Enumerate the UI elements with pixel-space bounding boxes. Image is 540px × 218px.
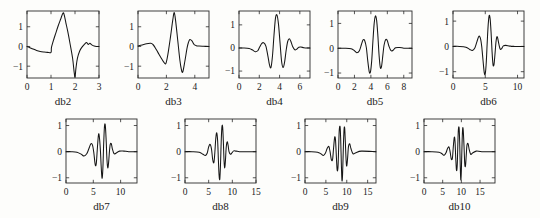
x-tick-label: 0 <box>64 187 69 197</box>
x-tick-label: 4 <box>277 82 282 92</box>
x-tick-label: 3 <box>97 82 102 92</box>
subplot-db8: 051015−101db8 <box>163 115 268 217</box>
y-tick-label: 1 <box>444 17 449 27</box>
axis-frame <box>338 11 412 78</box>
x-tick-label: 2 <box>352 82 357 92</box>
subplot-db10: 051015−101db10 <box>402 115 507 217</box>
y-tick-label: −1 <box>225 66 235 76</box>
y-tick-label: 1 <box>18 22 23 32</box>
y-tick-label: −1 <box>13 62 23 72</box>
x-tick-label: 0 <box>422 187 427 197</box>
x-tick-label: 4 <box>192 82 197 92</box>
x-tick-label: 4 <box>369 82 374 92</box>
subplot-caption-db3: db3 <box>138 95 209 107</box>
y-tick-label: 0 <box>415 147 420 157</box>
wavelet-curve-db5 <box>338 16 412 73</box>
subplot-db4: 0246−101db4 <box>217 7 322 112</box>
x-tick-label: 0 <box>25 82 30 92</box>
x-tick-label: 10 <box>116 187 126 197</box>
subplot-caption-db9: db9 <box>305 200 376 212</box>
subplot-caption-db5: db5 <box>338 95 412 107</box>
x-tick-label: 10 <box>457 187 467 197</box>
y-tick-label: −1 <box>324 68 334 78</box>
wavelet-curve-db4 <box>239 15 310 68</box>
x-tick-label: 15 <box>251 187 261 197</box>
x-tick-label: 5 <box>324 187 329 197</box>
wavelet-curve-db7 <box>66 124 137 179</box>
subplot-db5: 02468−101db5 <box>316 7 424 112</box>
x-tick-label: 0 <box>303 187 308 197</box>
x-tick-label: 5 <box>483 82 488 92</box>
x-tick-label: 10 <box>228 187 238 197</box>
wavelet-curve-db6 <box>453 15 524 75</box>
x-tick-label: 5 <box>440 187 445 197</box>
x-tick-label: 6 <box>385 82 390 92</box>
x-tick-label: 5 <box>206 187 211 197</box>
y-tick-label: −1 <box>124 62 134 72</box>
subplot-caption-db7: db7 <box>66 200 137 212</box>
x-tick-label: 15 <box>475 187 485 197</box>
x-tick-label: 2 <box>257 82 262 92</box>
y-tick-label: 0 <box>57 147 62 157</box>
x-tick-label: 15 <box>363 187 373 197</box>
y-tick-label: −1 <box>439 67 449 77</box>
subplot-db7: 0510−101db7 <box>44 115 149 217</box>
y-tick-label: 0 <box>444 42 449 52</box>
axis-frame <box>239 11 310 78</box>
wavelet-curve-db3 <box>138 13 209 73</box>
y-tick-label: 0 <box>329 44 334 54</box>
y-tick-label: 0 <box>176 147 181 157</box>
y-tick-label: 0 <box>18 42 23 52</box>
y-tick-label: 1 <box>129 22 134 32</box>
x-tick-label: 2 <box>73 82 78 92</box>
x-tick-label: 0 <box>136 82 141 92</box>
x-tick-label: 0 <box>336 82 341 92</box>
subplot-db2: 0123−101db2 <box>5 7 111 112</box>
y-tick-label: 1 <box>230 20 235 30</box>
x-tick-label: 10 <box>342 187 352 197</box>
y-tick-label: −1 <box>171 173 181 183</box>
wavelet-curve-db10 <box>424 127 495 180</box>
y-tick-label: 1 <box>57 121 62 131</box>
y-tick-label: −1 <box>410 173 420 183</box>
y-tick-label: −1 <box>291 173 301 183</box>
y-tick-label: 0 <box>129 42 134 52</box>
subplot-caption-db2: db2 <box>27 95 99 107</box>
x-tick-label: 10 <box>513 82 523 92</box>
x-tick-label: 5 <box>91 187 96 197</box>
y-tick-label: 1 <box>415 121 420 131</box>
subplot-caption-db10: db10 <box>424 200 495 212</box>
subplot-db3: 024−101db3 <box>116 7 221 112</box>
wavelet-figure: 0123−101db2024−101db30246−101db402468−10… <box>0 0 540 218</box>
x-tick-label: 0 <box>183 187 188 197</box>
y-tick-label: 1 <box>296 121 301 131</box>
wavelet-curve-db9 <box>305 126 376 181</box>
subplot-caption-db4: db4 <box>239 95 310 107</box>
wavelet-curve-db2 <box>27 13 99 77</box>
y-tick-label: −1 <box>52 173 62 183</box>
y-tick-label: 1 <box>329 19 334 29</box>
subplot-caption-db8: db8 <box>185 200 256 212</box>
subplot-db6: 0510−101db6 <box>431 7 536 112</box>
y-tick-label: 0 <box>296 147 301 157</box>
x-tick-label: 6 <box>297 82 302 92</box>
x-tick-label: 0 <box>451 82 456 92</box>
x-tick-label: 0 <box>237 82 242 92</box>
wavelet-curve-db8 <box>185 125 256 180</box>
x-tick-label: 8 <box>401 82 406 92</box>
axis-frame <box>138 11 209 78</box>
x-tick-label: 1 <box>49 82 54 92</box>
subplot-db9: 051015−101db9 <box>283 115 388 217</box>
subplot-caption-db6: db6 <box>453 95 524 107</box>
y-tick-label: 1 <box>176 121 181 131</box>
x-tick-label: 2 <box>164 82 169 92</box>
y-tick-label: 0 <box>230 43 235 53</box>
